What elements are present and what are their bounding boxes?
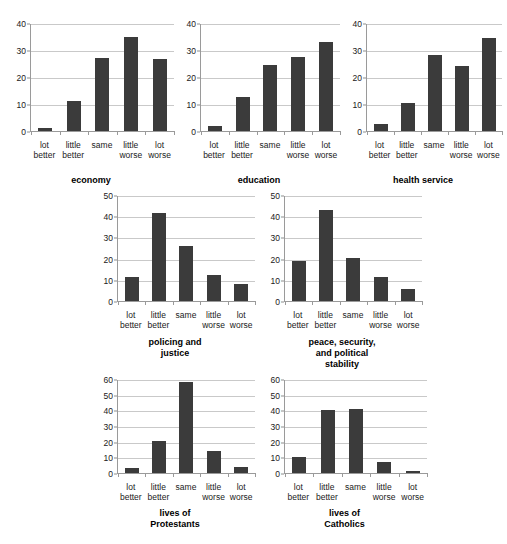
x-category-label-line: lot [366,140,393,150]
x-tick-marks [201,131,340,135]
bar-series [31,24,174,131]
bar-series [118,380,255,473]
x-category-label-line: little [312,310,340,320]
bar [346,258,360,301]
x-category-label-line: same [420,140,447,150]
y-tick-label: 60 [104,376,113,385]
x-category-label: lotworse [394,310,422,330]
chart-lives-of-catholics: 0102030405060lotbetterlittlebettersameli… [262,380,427,544]
y-tick-label: 0 [21,128,26,137]
x-category-label: littlebetter [59,140,88,160]
y-tick-label: 50 [104,391,113,400]
y-tick-label: 30 [271,423,280,432]
y-tick-label: 40 [104,213,113,222]
y-tick-label: 30 [271,234,280,243]
x-tick-mark [285,473,286,477]
x-tick-mark [255,473,256,477]
x-category-label: same [88,140,117,160]
x-axis-labels-peace-security-and-political-stability: lotbetterlittlebettersamelittleworselotw… [284,310,422,330]
y-axis-lives-of-protestants: 0102030405060 [95,380,117,474]
x-category-label: lotbetter [284,482,313,502]
x-category-label-line: lot [30,140,59,150]
x-category-label-line: better [30,150,59,160]
x-category-label-line: lot [312,140,340,150]
chart-title-peace-security-and-political-stability: peace, security,and politicalstability [262,337,422,370]
x-category-label-line: better [284,492,313,502]
x-category-label: littleworse [200,310,228,330]
chart-peace-security-and-political-stability: 01020304050lotbetterlittlebettersamelitt… [262,196,422,377]
x-category-label: same [256,140,284,160]
y-tick-label: 50 [271,391,280,400]
x-category-label: lotworse [475,140,502,160]
x-tick-marks [31,131,174,135]
y-tick-label: 40 [17,20,26,29]
bar [455,66,469,131]
y-tick-label: 20 [17,74,26,83]
x-category-label: lotbetter [117,310,145,330]
x-category-label: littlebetter [145,310,173,330]
plot-area-lives-of-catholics: 0102030405060 [262,380,427,474]
y-tick-label: 30 [17,47,26,56]
bar [319,42,333,131]
x-tick-mark [257,131,258,135]
y-axis-health-service: 010203040 [344,24,366,132]
x-category-label: lotbetter [200,140,228,160]
small-multiples-bar-chart-figure: 010203040lotbetterlittlebettersamelittle… [0,0,507,544]
bar [67,101,81,131]
x-category-label: lotbetter [284,310,312,330]
plot-area-peace-security-and-political-stability: 01020304050 [262,196,422,302]
x-tick-mark [200,473,201,477]
x-category-label: littlebetter [313,482,342,502]
y-tick-label: 50 [104,192,113,201]
x-category-label-line: better [145,492,173,502]
chart-policing-and-justice: 01020304050lotbetterlittlebettersamelitt… [95,196,255,377]
x-tick-mark [173,473,174,477]
plot-box-economy [30,24,174,132]
x-category-label-line: better [366,150,393,160]
y-tick-label: 0 [108,298,113,307]
x-category-label-line: little [313,482,342,492]
x-category-label: littlebetter [228,140,256,160]
x-tick-mark [228,301,229,305]
x-category-label-line: little [367,310,395,320]
x-category-label-line: worse [398,492,427,502]
x-category-label-line: little [448,140,475,150]
y-tick-label: 10 [104,454,113,463]
bar [234,284,248,301]
x-category-label-line: worse [370,492,399,502]
chart-title-line: lives of [95,508,255,519]
bar [236,97,250,131]
x-tick-mark [118,473,119,477]
x-category-label-line: lot [145,140,174,150]
y-tick-label: 40 [271,213,280,222]
y-tick-label: 20 [353,74,362,83]
y-tick-label: 40 [187,20,196,29]
chart-title-line: stability [262,359,422,370]
y-tick-label: 20 [271,255,280,264]
bar [428,55,442,131]
x-category-label-line: worse [367,320,395,330]
y-tick-label: 40 [353,20,362,29]
bar-series [367,24,502,131]
y-axis-education: 010203040 [178,24,200,132]
x-tick-marks [285,473,427,477]
bar [125,277,139,301]
x-tick-mark [145,131,146,135]
x-tick-mark [394,131,395,135]
plot-area-economy: 010203040 [8,24,174,132]
bar-series [285,380,427,473]
bar [401,103,415,131]
x-category-label: lotworse [398,482,427,502]
x-tick-mark [201,131,202,135]
x-tick-mark [174,131,175,135]
bar-series [118,196,255,301]
x-category-label-line: little [284,140,312,150]
chart-title-economy: economy [8,175,174,186]
bar [482,38,496,131]
x-tick-mark [342,473,343,477]
x-tick-mark [88,131,89,135]
bar [377,462,391,473]
x-tick-mark [340,301,341,305]
x-category-label-line: worse [200,320,228,330]
chart-title-line: justice [95,348,255,359]
